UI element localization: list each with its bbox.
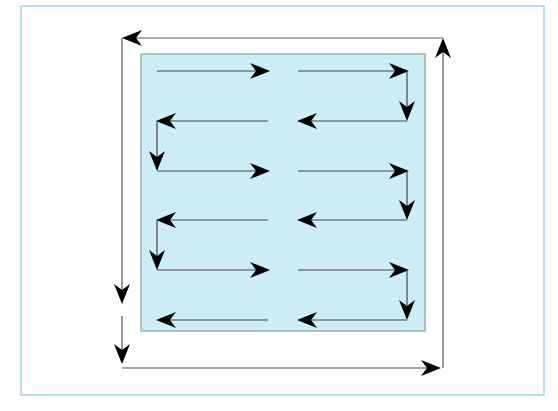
scan-path-diagram [0,0,558,411]
inner-region [141,54,425,331]
